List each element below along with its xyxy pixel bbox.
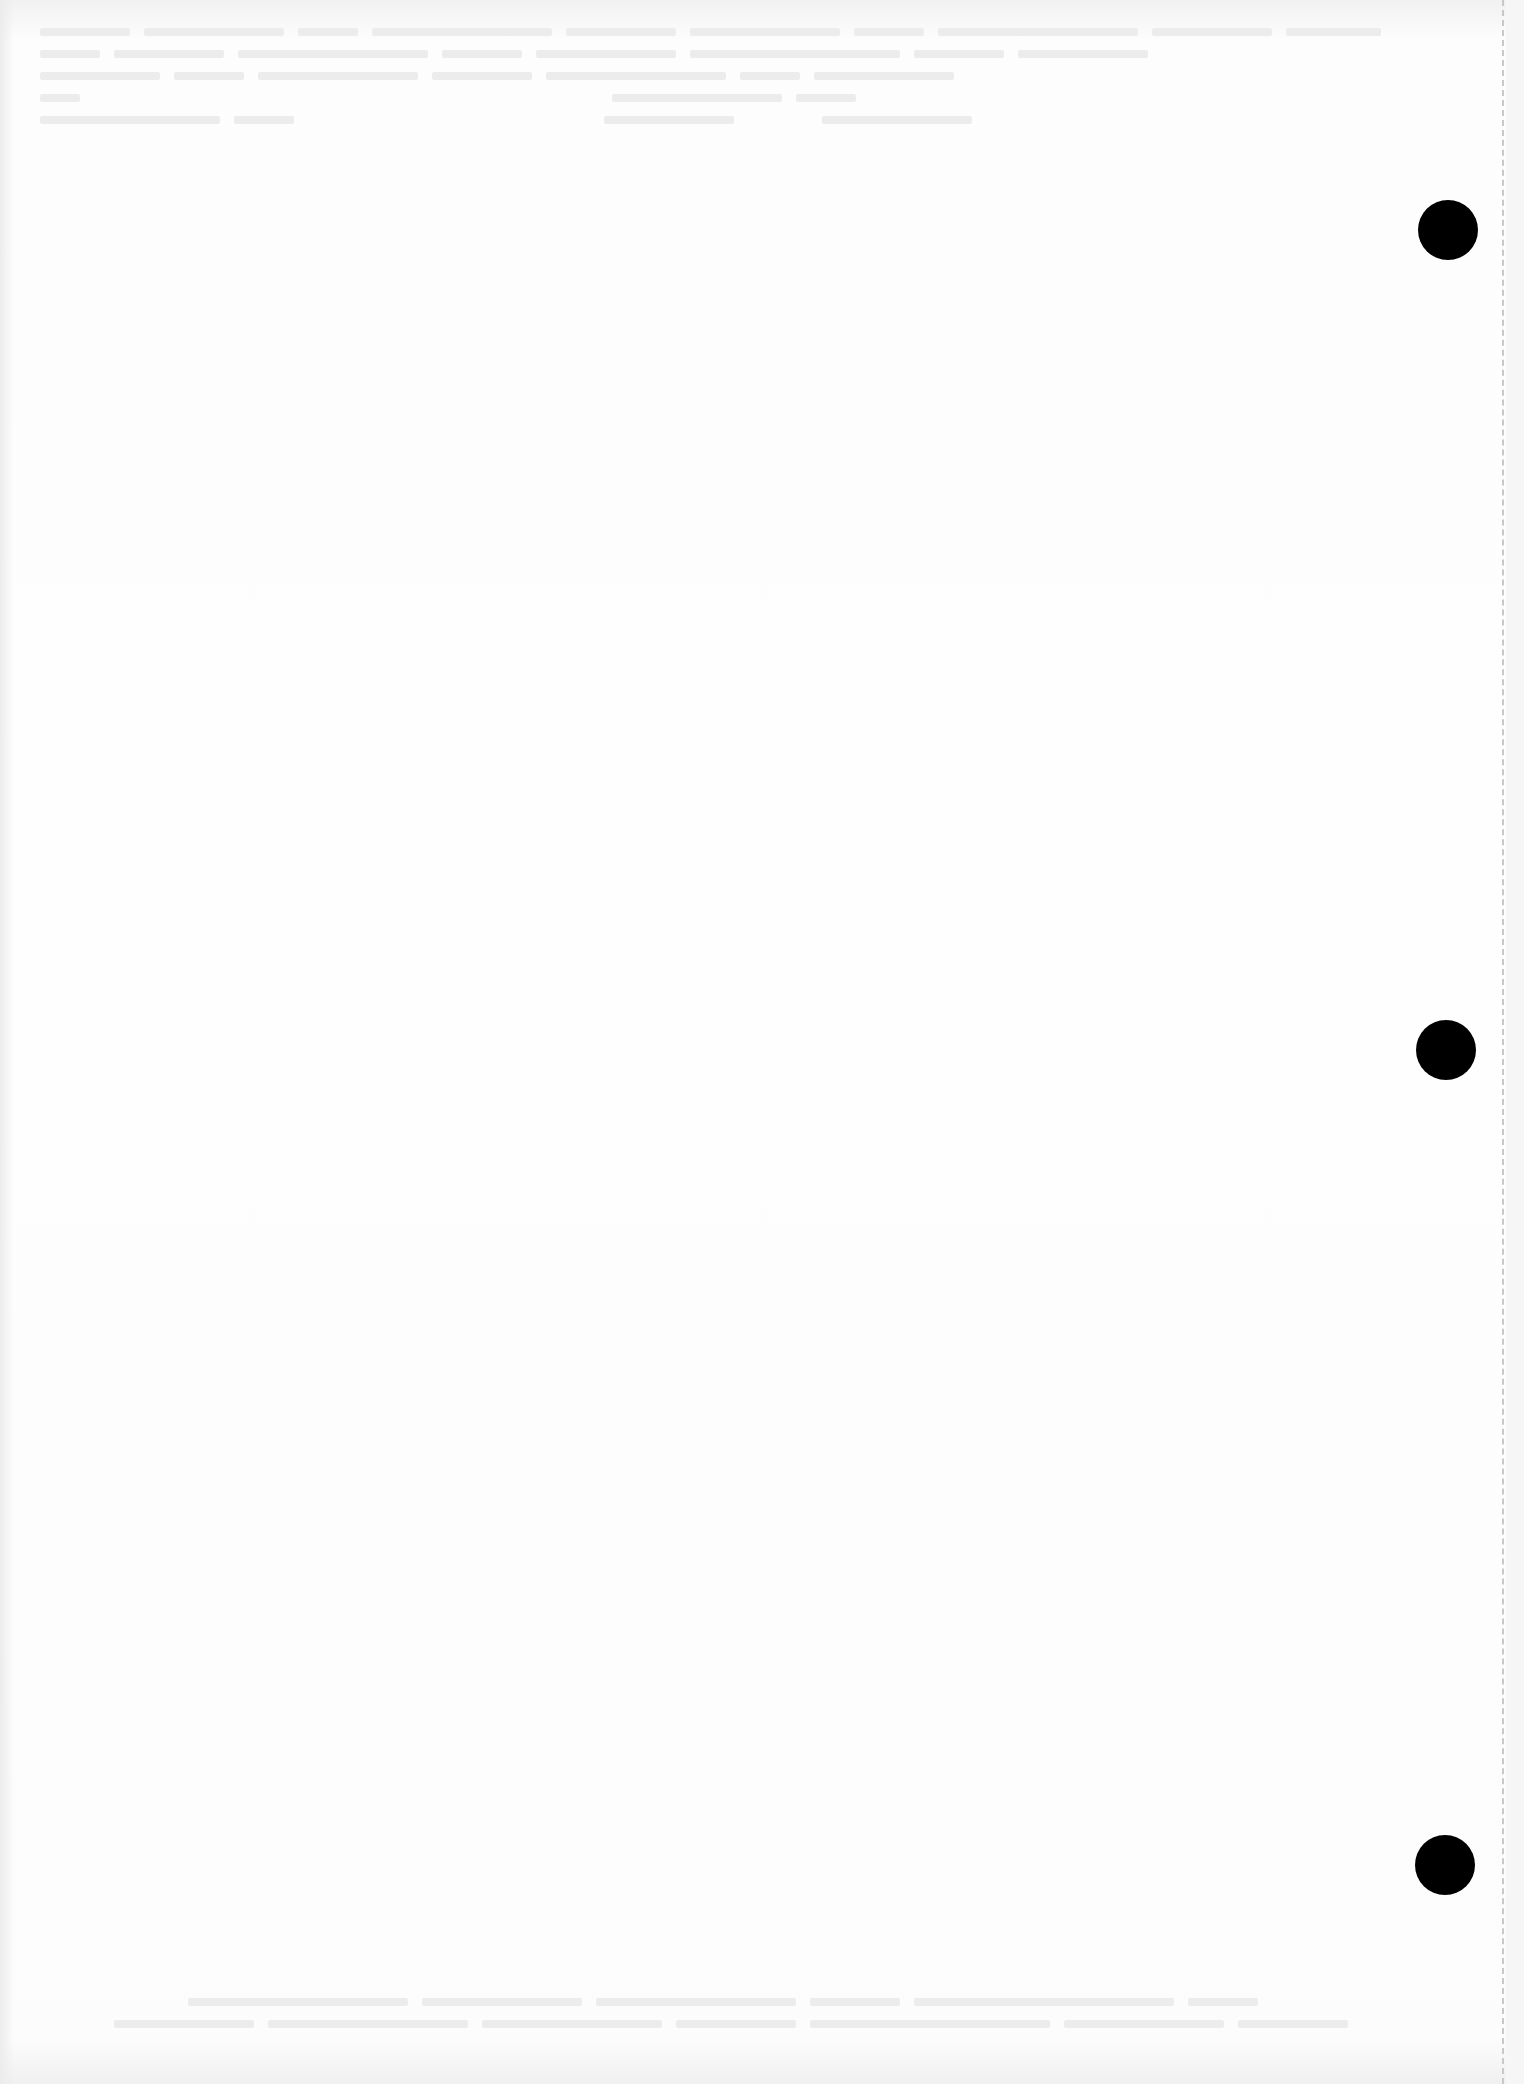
scan-shadow-edge: [0, 0, 14, 2084]
bleed-through-line: [40, 20, 1480, 42]
punch-hole-top: [1418, 200, 1478, 260]
tear-off-margin: [1506, 0, 1524, 2084]
punch-hole-bottom: [1415, 1835, 1475, 1895]
punch-hole-middle: [1416, 1020, 1476, 1080]
bleed-through-line: [40, 2012, 1480, 2034]
bleed-through-line: [40, 86, 1480, 108]
scanned-page: [0, 0, 1524, 2084]
bleed-through-line: [40, 1990, 1480, 2012]
bleed-through-line: [40, 108, 1480, 130]
bleed-through-text-bottom: [40, 1990, 1480, 2034]
bleed-through-line: [40, 42, 1480, 64]
bleed-through-line: [40, 64, 1480, 86]
bleed-through-text-top: [40, 20, 1480, 130]
perforation-line: [1502, 0, 1504, 2084]
